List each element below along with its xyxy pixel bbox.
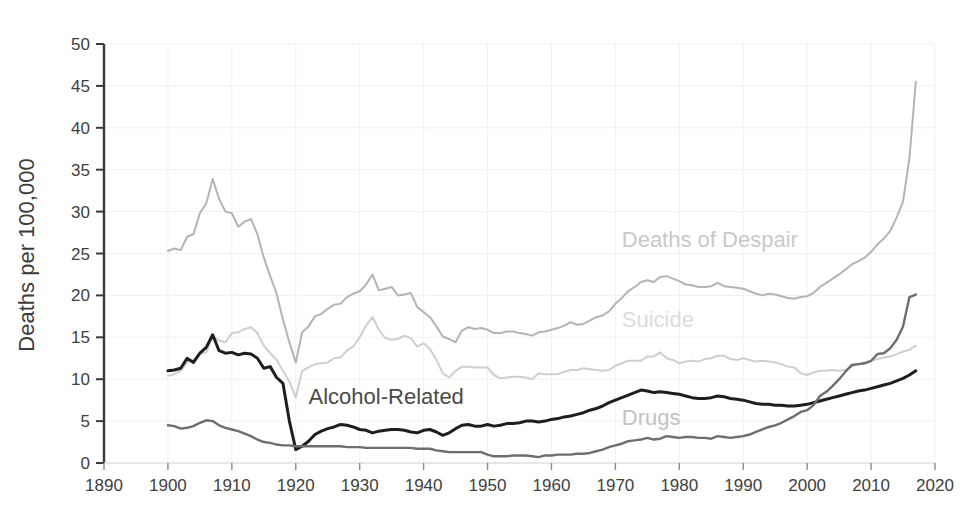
data-series	[168, 82, 916, 457]
svg-text:15: 15	[71, 328, 90, 347]
svg-text:5: 5	[81, 412, 90, 431]
chart-container: 05101520253035404550 1890190019101920193…	[0, 0, 969, 519]
y-axis-ticks: 05101520253035404550	[71, 35, 104, 473]
svg-text:1910: 1910	[213, 476, 251, 495]
svg-text:40: 40	[71, 119, 90, 138]
x-axis-ticks: 1890190019101920193019401950196019701980…	[85, 463, 954, 495]
svg-text:1890: 1890	[85, 476, 123, 495]
annotation-suicide: Suicide	[622, 307, 694, 332]
svg-text:1920: 1920	[277, 476, 315, 495]
series-line-drugs	[168, 295, 916, 458]
svg-text:1960: 1960	[533, 476, 571, 495]
svg-text:10: 10	[71, 370, 90, 389]
svg-text:45: 45	[71, 77, 90, 96]
svg-text:1950: 1950	[469, 476, 507, 495]
svg-text:1940: 1940	[405, 476, 443, 495]
svg-text:2010: 2010	[852, 476, 890, 495]
svg-text:25: 25	[71, 245, 90, 264]
svg-text:35: 35	[71, 161, 90, 180]
svg-text:1970: 1970	[596, 476, 634, 495]
svg-text:1900: 1900	[149, 476, 187, 495]
svg-text:1930: 1930	[341, 476, 379, 495]
series-line-alcohol-related	[168, 335, 916, 450]
y-axis-label: Deaths per 100,000	[14, 158, 39, 351]
svg-text:30: 30	[71, 203, 90, 222]
svg-text:20: 20	[71, 286, 90, 305]
gridlines	[104, 44, 935, 463]
annotation-deaths-of-despair: Deaths of Despair	[622, 227, 798, 252]
svg-text:2020: 2020	[916, 476, 954, 495]
annotation-alcohol-related: Alcohol-Related	[309, 384, 464, 409]
deaths-of-despair-line-chart: 05101520253035404550 1890190019101920193…	[0, 0, 969, 519]
svg-text:1980: 1980	[660, 476, 698, 495]
annotation-drugs: Drugs	[622, 405, 681, 430]
series-line-suicide	[168, 317, 916, 397]
svg-text:50: 50	[71, 35, 90, 54]
svg-text:1990: 1990	[724, 476, 762, 495]
svg-text:0: 0	[81, 454, 90, 473]
series-line-deaths-of-despair	[168, 82, 916, 363]
svg-text:2000: 2000	[788, 476, 826, 495]
